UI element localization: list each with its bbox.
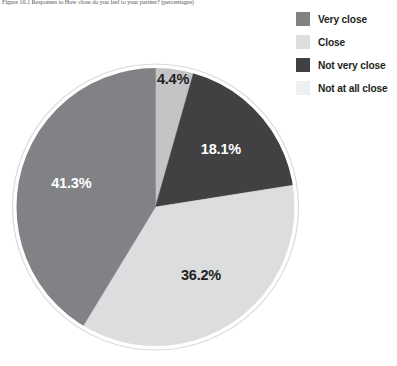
legend-label-very-close: Very close — [318, 14, 367, 25]
pie-slice-label-close: 36.2% — [181, 267, 221, 283]
legend-swatch-close — [296, 35, 310, 49]
pie-chart-svg: 4.4%18.1%36.2%41.3% — [10, 58, 302, 358]
pie-slice-label-not-at-all-close: 4.4% — [157, 71, 190, 87]
legend-label-not-at-all-close: Not at all close — [318, 83, 388, 94]
legend-label-not-very-close: Not very close — [318, 60, 386, 71]
legend-item-close[interactable]: Close — [296, 34, 397, 50]
legend-item-very-close[interactable]: Very close — [296, 11, 397, 27]
legend-item-not-very-close[interactable]: Not very close — [296, 57, 397, 73]
legend-label-close: Close — [318, 37, 345, 48]
chart-legend: Very close Close Not very close Not at a… — [296, 11, 397, 103]
figure-caption: Figure 10.1 Responses to How close do yo… — [2, 0, 395, 6]
pie-chart: 4.4%18.1%36.2%41.3% — [10, 58, 302, 358]
pie-slice-label-very-close: 41.3% — [51, 175, 91, 191]
legend-swatch-very-close — [296, 12, 310, 26]
legend-item-not-at-all-close[interactable]: Not at all close — [296, 80, 397, 96]
pie-slice-label-not-very-close: 18.1% — [201, 141, 241, 157]
figure-container: Figure 10.1 Responses to How close do yo… — [0, 0, 397, 366]
